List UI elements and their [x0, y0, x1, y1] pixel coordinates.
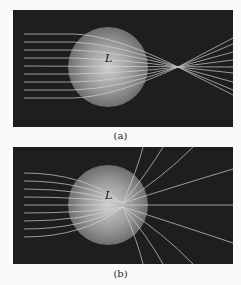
lens-label: L	[104, 52, 112, 65]
caption-a: (a)	[0, 130, 241, 141]
panel-b: L	[13, 147, 233, 264]
lens-sphere	[68, 27, 148, 107]
panel-a: L	[13, 10, 233, 127]
lens-diagram-b: L	[13, 147, 233, 264]
caption-b: (b)	[0, 268, 241, 279]
lens-diagram-a: L	[13, 10, 233, 127]
lens-label: L	[104, 189, 112, 202]
